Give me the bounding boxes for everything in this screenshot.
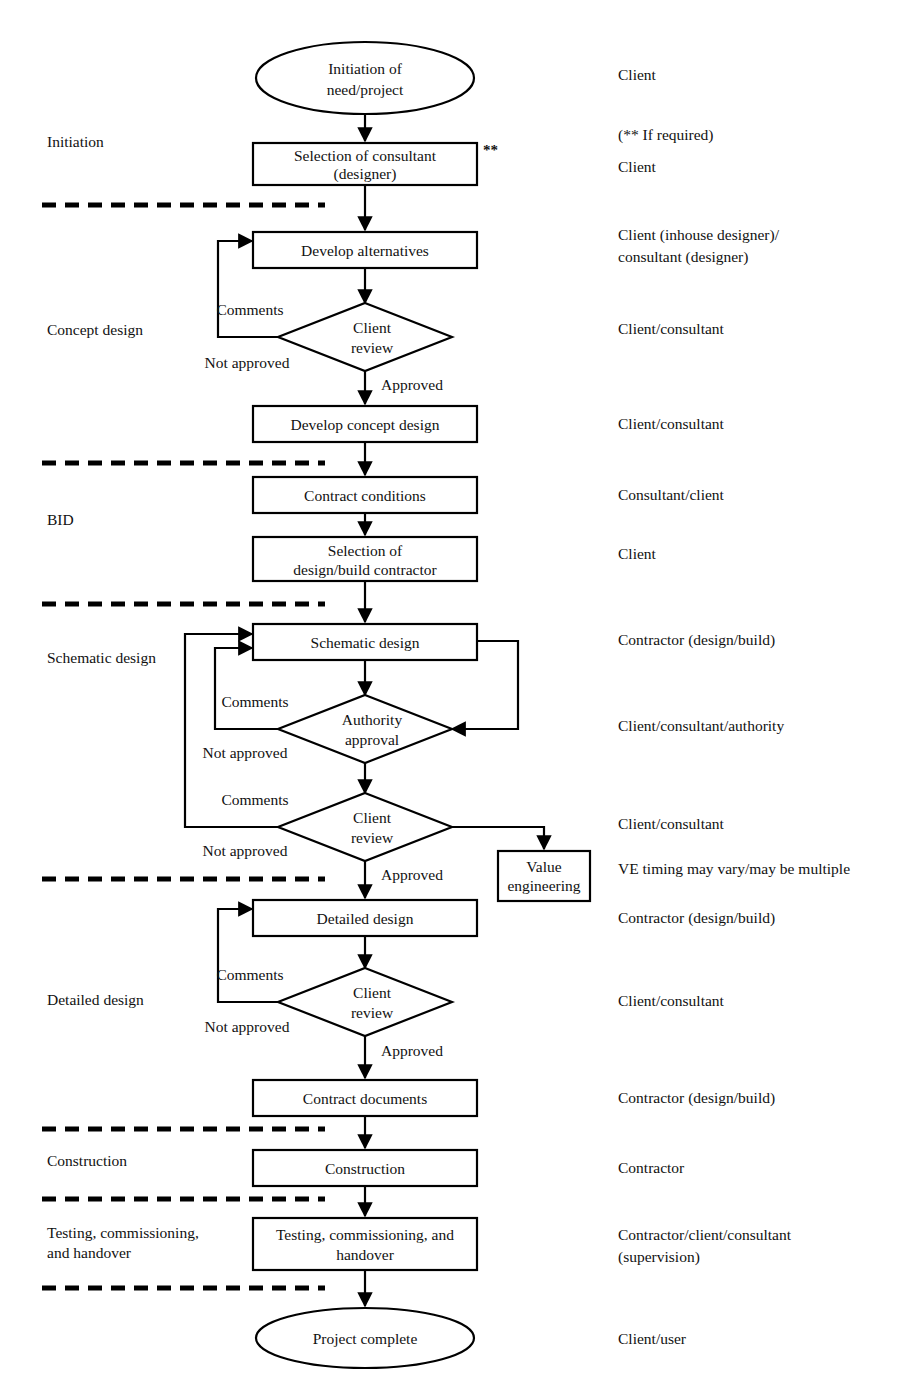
phase-label-initiation: Initiation	[47, 133, 104, 150]
actor-label-client-review-concept: Client/consultant	[618, 320, 725, 337]
node-initiation-of-need-line1: Initiation of	[328, 60, 402, 77]
node-selection-of-contractor-line2: design/build contractor	[293, 561, 437, 578]
actor-label-project-complete: Client/user	[618, 1330, 687, 1347]
node-contract-conditions-label: Contract conditions	[304, 487, 426, 504]
phase-label-concept-design: Concept design	[47, 321, 143, 338]
process-flowchart: Initiation of need/project Selection of …	[0, 0, 917, 1398]
node-value-engineering-line2: engineering	[507, 877, 580, 894]
node-value-engineering[interactable]: Value engineering	[498, 851, 590, 901]
node-project-complete[interactable]: Project complete	[256, 1308, 474, 1368]
node-project-complete-label: Project complete	[313, 1330, 418, 1347]
node-testing-commissioning-line2: handover	[336, 1246, 395, 1263]
actor-label-alternatives-line2: consultant (designer)	[618, 248, 748, 266]
actor-label-value-engineering: VE timing may vary/may be multiple	[618, 860, 850, 877]
node-develop-alternatives-label: Develop alternatives	[301, 242, 429, 259]
node-client-review-detailed-line1: Client	[353, 984, 392, 1001]
node-detailed-design[interactable]: Detailed design	[253, 900, 477, 936]
node-authority-approval-line1: Authority	[342, 711, 403, 728]
phase-label-construction: Construction	[47, 1152, 127, 1169]
node-client-review-schematic-line2: review	[351, 829, 394, 846]
actor-label-concept-design: Client/consultant	[618, 415, 725, 432]
edge-label-detailed-not-approved: Not approved	[205, 1018, 290, 1035]
node-client-review-concept-line2: review	[351, 339, 394, 356]
edge-label-schematic-approved: Approved	[381, 866, 443, 883]
node-testing-commissioning-line1: Testing, commissioning, and	[276, 1226, 454, 1243]
phase-label-testing-line1: Testing, commissioning,	[47, 1224, 199, 1241]
actor-label-initiation: Client	[618, 66, 657, 83]
edge-label-authority-not-approved: Not approved	[203, 744, 288, 761]
actor-label-detailed-design: Contractor (design/build)	[618, 909, 775, 927]
node-construction-label: Construction	[325, 1160, 405, 1177]
actor-label-authority-approval: Client/consultant/authority	[618, 717, 784, 734]
node-contract-conditions[interactable]: Contract conditions	[253, 477, 477, 513]
actor-label-testing-line2: (supervision)	[618, 1248, 700, 1266]
node-schematic-design-label: Schematic design	[311, 634, 420, 651]
actor-label-contract-documents: Contractor (design/build)	[618, 1089, 775, 1107]
edge-label-concept-not-approved: Not approved	[205, 354, 290, 371]
connector-client-review-to-value-engineering	[452, 827, 544, 849]
edge-label-concept-approved: Approved	[381, 376, 443, 393]
node-selection-of-contractor-line1: Selection of	[328, 542, 403, 559]
node-testing-commissioning[interactable]: Testing, commissioning, and handover	[253, 1218, 477, 1270]
phase-label-bid: BID	[47, 511, 74, 528]
edge-label-authority-comments: Comments	[221, 693, 288, 710]
actor-label-selection-contractor: Client	[618, 545, 657, 562]
node-client-review-concept-line1: Client	[353, 319, 392, 336]
edge-label-detailed-comments: Comments	[216, 966, 283, 983]
node-selection-of-consultant[interactable]: Selection of consultant (designer)	[253, 143, 477, 185]
node-client-review-schematic-line1: Client	[353, 809, 392, 826]
actor-label-schematic-design: Contractor (design/build)	[618, 631, 775, 649]
edge-label-detailed-approved: Approved	[381, 1042, 443, 1059]
node-authority-approval[interactable]: Authority approval	[278, 695, 452, 763]
node-client-review-concept[interactable]: Client review	[278, 303, 452, 371]
node-value-engineering-line1: Value	[526, 858, 561, 875]
edge-label-schematic-client-not-approved: Not approved	[203, 842, 288, 859]
phase-label-schematic-design: Schematic design	[47, 649, 156, 666]
phase-label-detailed-design: Detailed design	[47, 991, 144, 1008]
edge-label-concept-comments: Comments	[216, 301, 283, 318]
node-selection-of-contractor[interactable]: Selection of design/build contractor	[253, 537, 477, 581]
node-client-review-detailed[interactable]: Client review	[278, 968, 452, 1036]
actor-label-alternatives-line1: Client (inhouse designer)/	[618, 226, 780, 244]
consultant-asterisk-marker: **	[483, 142, 498, 158]
edge-label-schematic-client-comments: Comments	[221, 791, 288, 808]
node-construction[interactable]: Construction	[253, 1150, 477, 1186]
node-detailed-design-label: Detailed design	[317, 910, 414, 927]
actor-label-if-required: (** If required)	[618, 126, 714, 144]
actor-label-construction: Contractor	[618, 1159, 685, 1176]
node-client-review-detailed-line2: review	[351, 1004, 394, 1021]
actor-label-contract-conditions: Consultant/client	[618, 486, 725, 503]
phase-label-testing-line2: and handover	[47, 1244, 132, 1261]
node-schematic-design[interactable]: Schematic design	[253, 624, 477, 660]
node-selection-of-consultant-line2: (designer)	[334, 165, 397, 183]
node-initiation-of-need-line2: need/project	[327, 81, 404, 98]
actor-label-client-review-schematic: Client/consultant	[618, 815, 725, 832]
node-develop-concept-design[interactable]: Develop concept design	[253, 406, 477, 442]
node-authority-approval-line2: approval	[345, 731, 399, 748]
node-client-review-schematic[interactable]: Client review	[278, 793, 452, 861]
actor-label-selection-consultant: Client	[618, 158, 657, 175]
node-develop-alternatives[interactable]: Develop alternatives	[253, 232, 477, 268]
node-selection-of-consultant-line1: Selection of consultant	[294, 147, 437, 164]
node-initiation-of-need[interactable]: Initiation of need/project	[256, 42, 474, 114]
actor-label-client-review-detailed: Client/consultant	[618, 992, 725, 1009]
actor-label-testing-line1: Contractor/client/consultant	[618, 1226, 792, 1243]
node-contract-documents[interactable]: Contract documents	[253, 1080, 477, 1116]
node-contract-documents-label: Contract documents	[303, 1090, 427, 1107]
node-develop-concept-design-label: Develop concept design	[291, 416, 440, 433]
